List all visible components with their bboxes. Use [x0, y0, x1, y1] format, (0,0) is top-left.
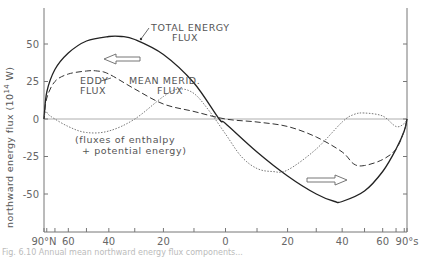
- y-tick-label: -25: [23, 151, 39, 162]
- x-tick-label: 40: [102, 236, 115, 247]
- note-line-1: (fluxes of enthalpy: [75, 134, 175, 145]
- eddy-flux-label-2: FLUX: [80, 85, 106, 96]
- arrow-right-icon: [307, 175, 347, 185]
- x-tick-label: 40: [336, 236, 349, 247]
- y-tick-label: -50: [23, 189, 39, 200]
- y-tick-label: 50: [26, 39, 39, 50]
- x-tick-label: 0: [222, 236, 228, 247]
- x-ticks: 90°N604020020406090°s: [31, 228, 418, 247]
- x-tick-label: 90°s: [396, 236, 419, 247]
- total-label-leader: [141, 28, 149, 39]
- x-tick-label: 90°N: [31, 236, 56, 247]
- annotations: TOTAL ENERGY FLUX EDDY FLUX MEAN MERID. …: [75, 22, 347, 185]
- y-tick-label: 0: [33, 114, 39, 125]
- energy-flux-chart: 50250-25-50 90°N604020020406090°s northw…: [0, 0, 425, 257]
- y-tick-label: 25: [26, 76, 39, 87]
- total-flux-label-2: FLUX: [172, 32, 198, 43]
- x-tick-label: 60: [376, 236, 389, 247]
- total-label-leader-dot: [140, 38, 142, 40]
- mean-merid-flux-label-2: FLUX: [157, 85, 183, 96]
- x-tick-label: 20: [281, 236, 294, 247]
- x-tick-label: 20: [157, 236, 170, 247]
- x-tick-label: 60: [62, 236, 75, 247]
- y-axis-label: northward energy flux (1014 W): [3, 67, 15, 228]
- note-line-2: + potential energy): [82, 145, 186, 156]
- arrow-left-icon: [104, 54, 140, 64]
- mean-merid-flux-line: [44, 89, 407, 172]
- figure-caption: Fig. 6.10 Annual mean northward energy f…: [2, 248, 243, 257]
